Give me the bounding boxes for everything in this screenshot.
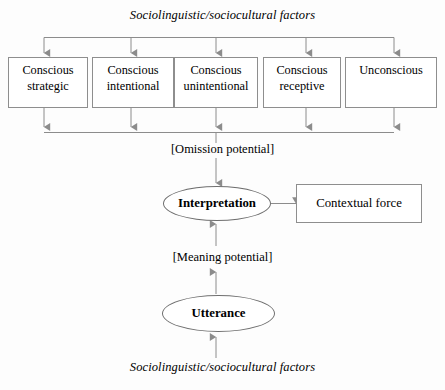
interpretation-node: Interpretation (163, 186, 271, 221)
box-conscious-unintentional: Conscious unintentional (174, 57, 258, 108)
box-label-line2: strategic (9, 79, 87, 95)
contextual-force-box: Contextual force (296, 184, 422, 223)
box-label-line2: intentional (93, 79, 173, 95)
meaning-potential-label: [Meaning potential] (0, 250, 445, 265)
box-unconscious: Unconscious (345, 57, 437, 108)
top-sociolinguistic-factors-label: Sociolinguistic/sociocultural factors (0, 8, 445, 23)
box-label-line1: Unconscious (346, 63, 436, 79)
box-label-line1: Conscious (93, 63, 173, 79)
omission-potential-label: [Omission potential] (0, 142, 445, 157)
box-label-line2: receptive (264, 79, 340, 95)
diagram-canvas: Sociolinguistic/sociocultural factors Co… (0, 0, 445, 390)
box-label-line1: Conscious (264, 63, 340, 79)
box-label-line1: Conscious (9, 63, 87, 79)
bottom-sociolinguistic-factors-label: Sociolinguistic/sociocultural factors (0, 360, 445, 375)
box-label-line2: unintentional (175, 79, 257, 95)
box-conscious-receptive: Conscious receptive (263, 57, 341, 108)
box-label-line1: Conscious (175, 63, 257, 79)
utterance-node: Utterance (162, 295, 275, 332)
box-conscious-intentional: Conscious intentional (92, 57, 174, 108)
box-conscious-strategic: Conscious strategic (8, 57, 88, 108)
